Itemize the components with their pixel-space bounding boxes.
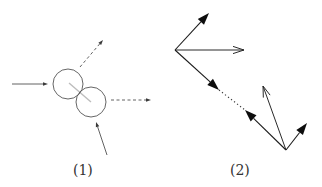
incoming-bottom-arrow — [96, 122, 107, 155]
panel-2-label: (2) — [230, 162, 250, 178]
panel-2 — [175, 13, 307, 150]
outgoing-upper-arrow — [80, 40, 103, 67]
diagonal-filled-arrow-2 — [245, 110, 286, 150]
diagram-canvas: (1) (2) — [0, 0, 322, 187]
outgoing-right-arrow — [111, 98, 151, 102]
arrowhead-icon — [43, 82, 48, 86]
panel-1 — [12, 40, 151, 155]
filled-arrowhead-icon — [296, 123, 307, 135]
incoming-left-arrow — [12, 82, 48, 86]
right-filled-arrow — [286, 123, 307, 150]
horizontal-open-arrow — [175, 46, 244, 53]
arrowhead-icon — [96, 122, 99, 127]
upper-filled-arrow — [175, 13, 209, 50]
panel-1-label: (1) — [73, 162, 93, 178]
vertical-open-arrow — [263, 86, 286, 150]
diagonal-filled-arrow-1 — [175, 50, 219, 90]
dotted-segment — [219, 90, 245, 110]
arrowhead-icon — [146, 98, 151, 102]
